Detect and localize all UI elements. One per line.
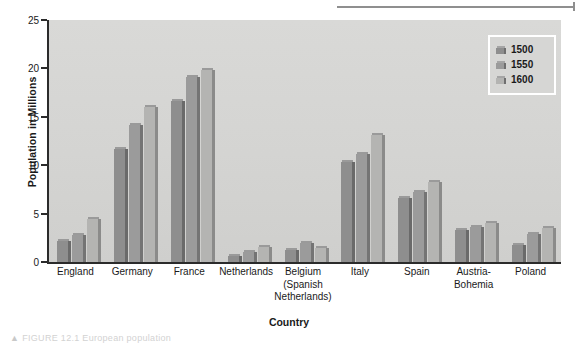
legend[interactable]: 1500 1550 1600 bbox=[488, 35, 556, 95]
legend-item[interactable]: 1550 bbox=[496, 57, 548, 72]
bar[interactable] bbox=[470, 227, 481, 262]
figure-caption-stub: ▲FIGURE 12.1 European population bbox=[10, 333, 171, 343]
page-rule bbox=[337, 6, 575, 8]
y-axis-tick-label: 15 bbox=[0, 111, 47, 122]
y-axis-tick-mark bbox=[41, 261, 47, 263]
bar-group bbox=[341, 20, 382, 262]
y-axis-tick-label: 10 bbox=[0, 160, 47, 171]
bar-group bbox=[285, 20, 326, 262]
caption-marker-icon: ▲ bbox=[10, 333, 19, 343]
bar[interactable] bbox=[485, 223, 496, 262]
caption-text: FIGURE 12.1 European population bbox=[22, 333, 171, 343]
bar-group bbox=[171, 20, 212, 262]
y-axis-tick-mark bbox=[41, 164, 47, 166]
y-axis-tick-label: 25 bbox=[0, 15, 47, 26]
bar[interactable] bbox=[542, 228, 553, 262]
legend-label: 1600 bbox=[511, 74, 533, 85]
y-axis-tick-mark bbox=[41, 19, 47, 21]
bar-series-layer bbox=[49, 20, 561, 262]
bar[interactable] bbox=[398, 198, 409, 262]
bar[interactable] bbox=[371, 135, 382, 262]
legend-swatch-icon bbox=[496, 46, 505, 54]
bar[interactable] bbox=[300, 243, 311, 262]
legend-label: 1500 bbox=[511, 44, 533, 55]
bar[interactable] bbox=[87, 219, 98, 262]
bar[interactable] bbox=[144, 107, 155, 262]
bar[interactable] bbox=[228, 256, 239, 262]
y-axis-tick-mark bbox=[41, 116, 47, 118]
x-axis-category-labels: EnglandGermanyFranceNetherlandsBelgium (… bbox=[47, 266, 559, 314]
bar-group bbox=[57, 20, 98, 262]
bar[interactable] bbox=[201, 70, 212, 262]
bar[interactable] bbox=[315, 248, 326, 262]
legend-label: 1550 bbox=[511, 59, 533, 70]
bar[interactable] bbox=[341, 162, 352, 262]
bar[interactable] bbox=[455, 230, 466, 262]
bar[interactable] bbox=[171, 101, 182, 262]
y-axis-tick-mark bbox=[41, 67, 47, 69]
bar[interactable] bbox=[428, 182, 439, 262]
bar[interactable] bbox=[72, 235, 83, 262]
bar[interactable] bbox=[258, 247, 269, 262]
bar-group bbox=[114, 20, 155, 262]
bar[interactable] bbox=[527, 234, 538, 262]
bar[interactable] bbox=[243, 252, 254, 262]
x-axis-category-label: Poland bbox=[494, 266, 567, 279]
page-rule-tick bbox=[573, 2, 575, 11]
y-axis-tick-mark bbox=[41, 213, 47, 215]
legend-item[interactable]: 1500 bbox=[496, 42, 548, 57]
legend-swatch-icon bbox=[496, 61, 505, 69]
bar-group bbox=[398, 20, 439, 262]
bar[interactable] bbox=[57, 241, 68, 262]
bar[interactable] bbox=[413, 192, 424, 262]
bar-group bbox=[228, 20, 269, 262]
figure-container: Population in Millions 0510152025 Englan… bbox=[0, 0, 578, 344]
bar[interactable] bbox=[356, 154, 367, 262]
legend-item[interactable]: 1600 bbox=[496, 72, 548, 87]
legend-swatch-icon bbox=[496, 76, 505, 84]
y-axis-tick-label: 20 bbox=[0, 63, 47, 74]
y-axis-tick-label: 5 bbox=[0, 208, 47, 219]
bar[interactable] bbox=[285, 250, 296, 262]
bar[interactable] bbox=[186, 77, 197, 262]
x-axis-title: Country bbox=[0, 316, 578, 328]
bar[interactable] bbox=[512, 245, 523, 262]
bar[interactable] bbox=[129, 125, 140, 262]
bar[interactable] bbox=[114, 149, 125, 262]
